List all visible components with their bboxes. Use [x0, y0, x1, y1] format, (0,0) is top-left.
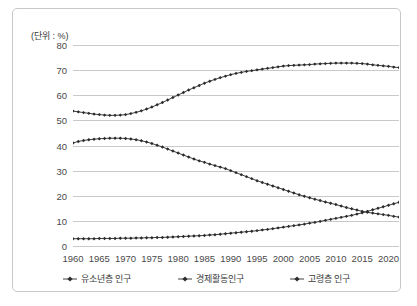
data-point-marker [213, 78, 216, 81]
data-point-marker [82, 139, 85, 142]
data-point-marker [376, 207, 379, 210]
data-point-marker [77, 237, 80, 240]
data-point-marker [182, 91, 185, 94]
data-point-marker [161, 236, 164, 239]
data-point-marker [82, 237, 85, 240]
data-point-marker [345, 61, 348, 64]
data-point-marker [339, 61, 342, 64]
data-point-marker [366, 62, 369, 65]
data-point-marker [103, 137, 106, 140]
data-point-marker [124, 113, 127, 116]
data-point-marker [171, 149, 174, 152]
legend-label: 경제활동인구 [196, 272, 244, 285]
data-point-marker [176, 235, 179, 238]
data-point-marker [192, 234, 195, 237]
data-point-marker [119, 237, 122, 240]
x-axis-tick: 1985 [194, 253, 215, 264]
data-point-marker [187, 235, 190, 238]
data-point-marker [92, 237, 95, 240]
legend-item-0[interactable]: 유소년층 인구 [63, 272, 132, 285]
data-point-marker [392, 65, 395, 68]
data-point-marker [271, 184, 274, 187]
data-point-marker [318, 199, 321, 202]
data-point-marker [229, 73, 232, 76]
x-axis-tick: 1980 [168, 253, 189, 264]
data-point-marker [318, 62, 321, 65]
data-point-marker [234, 231, 237, 234]
data-point-marker [73, 237, 75, 240]
data-point-marker [371, 63, 374, 66]
data-point-marker [339, 204, 342, 207]
plot-area [73, 45, 399, 246]
data-point-marker [182, 235, 185, 238]
data-point-marker [329, 218, 332, 221]
data-point-marker [339, 216, 342, 219]
y-axis-tick: 10 [41, 215, 67, 226]
data-point-marker [197, 84, 200, 87]
x-axis-tick: 1990 [220, 253, 241, 264]
data-point-marker [376, 64, 379, 67]
series-line [73, 63, 399, 115]
data-point-marker [140, 139, 143, 142]
data-point-marker [187, 88, 190, 91]
chart-frame: (단위 : %) 01020304050607080 1960196519701… [12, 8, 401, 292]
data-point-marker [397, 66, 399, 69]
data-point-marker [387, 65, 390, 68]
gridline [73, 246, 399, 247]
data-point-marker [113, 137, 116, 140]
x-axis-tick: 1965 [89, 253, 110, 264]
data-point-marker [292, 224, 295, 227]
data-point-marker [371, 211, 374, 214]
data-point-marker [219, 232, 222, 235]
series-lines [73, 45, 399, 246]
x-axis-tick: 2020 [378, 253, 399, 264]
data-point-marker [276, 186, 279, 189]
legend-item-1[interactable]: 경제활동인구 [178, 272, 244, 285]
data-point-marker [192, 86, 195, 89]
y-axis-tick: 50 [41, 115, 67, 126]
data-point-marker [271, 227, 274, 230]
data-point-marker [82, 111, 85, 114]
data-point-marker [73, 141, 75, 144]
y-axis-tick: 0 [41, 241, 67, 252]
data-point-marker [287, 190, 290, 193]
data-point-marker [150, 236, 153, 239]
data-point-marker [77, 140, 80, 143]
y-axis-tick: 70 [41, 65, 67, 76]
data-point-marker [360, 62, 363, 65]
data-point-marker [303, 222, 306, 225]
data-point-marker [250, 177, 253, 180]
data-point-marker [187, 155, 190, 158]
data-point-marker [213, 164, 216, 167]
data-point-marker [324, 219, 327, 222]
series-0 [73, 137, 399, 219]
x-axis-tick: 1995 [246, 253, 267, 264]
data-point-marker [92, 138, 95, 141]
data-point-marker [197, 234, 200, 237]
data-point-marker [382, 213, 385, 216]
series-1 [73, 61, 399, 117]
data-point-marker [161, 101, 164, 104]
data-point-marker [287, 64, 290, 67]
data-point-marker [282, 64, 285, 67]
data-point-marker [73, 109, 75, 112]
data-point-marker [297, 223, 300, 226]
data-point-marker [387, 214, 390, 217]
data-point-marker [124, 137, 127, 140]
data-point-marker [282, 225, 285, 228]
data-point-marker [108, 114, 111, 117]
data-point-marker [219, 165, 222, 168]
data-point-marker [145, 236, 148, 239]
data-point-marker [124, 237, 127, 240]
data-point-marker [145, 140, 148, 143]
data-point-marker [103, 237, 106, 240]
legend-item-2[interactable]: 고령층 인구 [290, 272, 351, 285]
legend-label: 유소년층 인구 [81, 272, 132, 285]
data-point-marker [108, 137, 111, 140]
data-point-marker [382, 205, 385, 208]
x-axis-tick-labels: 1960196519701975198019851990199520002005… [73, 253, 399, 267]
data-point-marker [140, 109, 143, 112]
data-point-marker [324, 200, 327, 203]
x-axis-tick: 2005 [299, 253, 320, 264]
data-point-marker [271, 66, 274, 69]
